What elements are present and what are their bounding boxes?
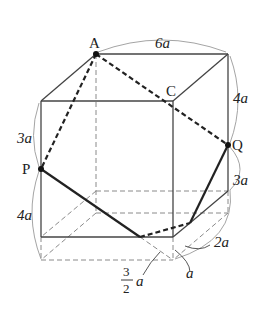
hidden-edges — [41, 54, 228, 260]
frac-numerator: 3 — [123, 264, 130, 279]
visible-edges — [41, 54, 228, 237]
dim-right-4a: 4a — [233, 90, 248, 106]
point-Q — [225, 142, 231, 148]
dimension-arcs — [32, 40, 240, 259]
label-Q: Q — [232, 137, 243, 153]
frac-denominator: 2 — [123, 281, 130, 296]
label-P: P — [22, 161, 30, 177]
label-C: C — [166, 83, 176, 99]
prism-diagram: A C P Q 6a 4a 3a 3a 4a 2a a 3 2 a — [0, 0, 279, 328]
point-P — [38, 166, 44, 172]
label-A: A — [89, 35, 100, 51]
frac-variable: a — [136, 273, 144, 289]
dim-three-halves-a: 3 2 a — [121, 264, 144, 296]
pointer-arrows — [143, 245, 210, 275]
section-solid — [41, 145, 228, 237]
dim-a: a — [186, 265, 194, 281]
section-dashed — [41, 54, 228, 237]
dim-right-3a: 3a — [232, 172, 248, 188]
point-A — [93, 51, 99, 57]
dim-top-6a: 6a — [155, 35, 170, 51]
dim-2a: 2a — [214, 234, 229, 250]
dim-left-4a: 4a — [17, 207, 32, 223]
dim-left-3a: 3a — [16, 130, 32, 146]
